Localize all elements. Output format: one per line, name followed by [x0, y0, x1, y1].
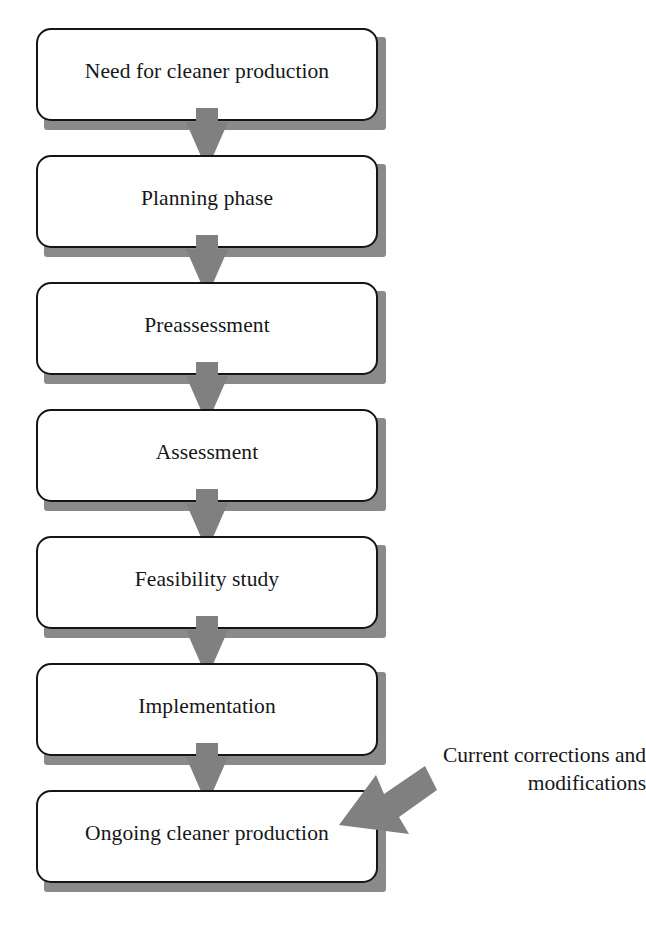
node-label: Implementation: [138, 695, 276, 719]
node-label: Need for cleaner production: [85, 60, 329, 84]
node-body: Ongoing cleaner production: [36, 790, 378, 883]
node-label: Preassessment: [144, 314, 270, 338]
node-label: Feasibility study: [135, 568, 279, 592]
node-label: Planning phase: [141, 187, 273, 211]
feedback-label-line2: modifications: [404, 770, 646, 798]
process-node-ongoing-cleaner-production[interactable]: Ongoing cleaner production: [36, 790, 378, 883]
node-label: Ongoing cleaner production: [85, 822, 329, 846]
flowchart-diagram: Need for cleaner production Planning pha…: [0, 0, 646, 933]
feedback-label-line1: Current corrections and: [404, 742, 646, 770]
node-label: Assessment: [156, 441, 259, 465]
feedback-label: Current corrections and modifications: [404, 742, 646, 797]
